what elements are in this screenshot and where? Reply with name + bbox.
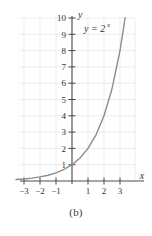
y-tick-label: 5 — [62, 95, 67, 105]
exponential-curve — [16, 18, 125, 180]
x-tick-labels: −3 −2 −1 1 2 3 — [19, 186, 123, 196]
y-tick-label: 8 — [62, 46, 67, 56]
y-tick-label: 6 — [62, 78, 67, 88]
y-tick-label: 9 — [62, 30, 67, 40]
x-tick-label: 1 — [86, 186, 91, 196]
y-tick-label: 2 — [62, 144, 67, 154]
figure-caption: (b) — [0, 206, 152, 218]
exponential-function-plot: 10 9 8 7 6 5 4 3 2 1 −3 −2 −1 1 2 3 y x … — [0, 0, 152, 236]
y-tick-label: 10 — [57, 13, 67, 23]
figure-panel: 10 9 8 7 6 5 4 3 2 1 −3 −2 −1 1 2 3 y x … — [0, 0, 152, 236]
x-tick-label: −2 — [35, 186, 45, 196]
x-axis-name-label: x — [139, 170, 145, 181]
y-tick-labels: 10 9 8 7 6 5 4 3 2 1 — [57, 13, 67, 170]
equation-label-exponent: x — [106, 21, 111, 29]
y-axis-name-label: y — [77, 9, 83, 20]
grid-horizontal — [20, 18, 135, 165]
equation-label-base: y = 2 — [83, 23, 105, 34]
x-tick-label: 2 — [102, 186, 107, 196]
x-tick-label: −3 — [19, 186, 29, 196]
y-tick-label: 4 — [62, 111, 67, 121]
x-tick-label: −1 — [51, 186, 61, 196]
equation-annotation: y = 2 x — [83, 21, 111, 34]
x-tick-label: 3 — [118, 186, 123, 196]
y-tick-label: 7 — [62, 62, 67, 72]
y-tick-label: 3 — [62, 127, 67, 137]
